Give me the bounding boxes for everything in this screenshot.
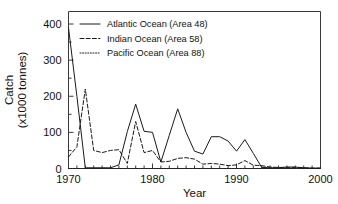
y-tick-label: 400 [43, 18, 61, 30]
y-tick-label: 200 [43, 90, 61, 102]
y-tick-label: 0 [55, 163, 61, 175]
series-line-1 [69, 89, 321, 168]
y-tick-label: 300 [43, 54, 61, 66]
x-tick-label: 1990 [224, 173, 248, 185]
y-axis-title-line1: Catch [3, 75, 15, 105]
legend-label-0: Atlantic Ocean (Area 48) [107, 19, 208, 29]
axis-titles-group: YearCatch(x1000 tonnes) [3, 51, 206, 199]
y-axis-title-line2: (x1000 tonnes) [16, 51, 28, 128]
x-axis-title: Year [183, 187, 206, 199]
x-tick-label: 2000 [308, 173, 332, 185]
legend-label-1: Indian Ocean (Area 58) [107, 34, 203, 44]
figure-container: 19701980199020000100200300400 Atlantic O… [0, 0, 338, 204]
legend-label-2: Pacific Ocean (Area 88) [107, 48, 205, 58]
chart-legend: Atlantic Ocean (Area 48)Indian Ocean (Ar… [80, 19, 208, 58]
x-tick-label: 1980 [140, 173, 164, 185]
y-tick-label: 100 [43, 126, 61, 138]
chart-canvas: 19701980199020000100200300400 Atlantic O… [0, 0, 338, 204]
